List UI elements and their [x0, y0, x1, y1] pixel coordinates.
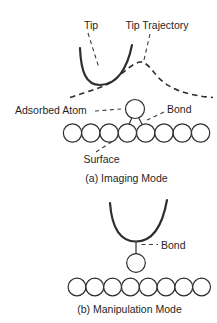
surface-atom: [118, 124, 136, 142]
surface-atom: [139, 278, 157, 296]
tip-curve: [80, 45, 132, 85]
surface-atom: [193, 278, 211, 296]
surface-atom: [191, 124, 209, 142]
adsorbed-atom-label: Adsorbed Atom: [15, 104, 87, 116]
bond-label: Bond: [167, 103, 192, 115]
surface-atom: [121, 278, 139, 296]
surface-atom: [155, 124, 173, 142]
tip-label: Tip: [84, 19, 98, 31]
surface-atom: [104, 278, 122, 296]
tip-trajectory-leader-line: [144, 34, 150, 60]
surface-atom: [82, 124, 100, 142]
imaging-mode-caption: (a) Imaging Mode: [85, 172, 167, 184]
surface-atoms-row-b: [68, 278, 210, 296]
adsorbed-atom: [126, 100, 145, 119]
tip-curve-b: [110, 200, 167, 242]
surface-atoms-row-a: [63, 124, 209, 142]
manipulated-atom: [127, 254, 146, 273]
tip-leader-line: [88, 33, 99, 68]
surface-label: Surface: [83, 153, 119, 165]
surface-atom: [100, 124, 118, 142]
surface-atom: [137, 124, 155, 142]
surface-atom: [173, 124, 191, 142]
adsorbed-atom-leader-line: [95, 109, 121, 111]
afm-modes-figure: Tip Tip Trajectory Adsorbed Atom Bond: [0, 0, 217, 323]
surface-atom: [175, 278, 193, 296]
surface-atom: [86, 278, 104, 296]
tip-trajectory-label: Tip Trajectory: [125, 19, 189, 31]
diagram-canvas: Tip Tip Trajectory Adsorbed Atom Bond: [0, 0, 217, 323]
bond-leader-line: [147, 112, 164, 120]
surface-atom: [63, 124, 81, 142]
manipulation-mode-caption: (b) Manipulation Mode: [77, 303, 182, 315]
surface-atom: [68, 278, 86, 296]
imaging-mode-panel: Tip Tip Trajectory Adsorbed Atom Bond: [15, 19, 213, 184]
surface-leader-line: [96, 141, 113, 152]
bond-label-b: Bond: [161, 239, 186, 251]
surface-atom: [157, 278, 175, 296]
manipulation-mode-panel: Bond (b) Manipulation Mode: [68, 200, 210, 315]
tip-trajectory-curve: [70, 62, 213, 98]
